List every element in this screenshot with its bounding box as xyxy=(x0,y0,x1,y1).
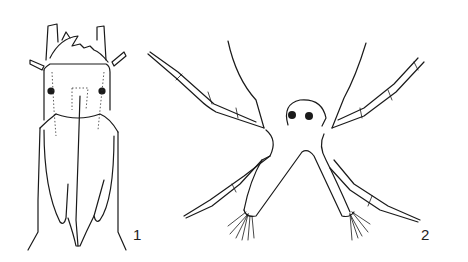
panel-label-2: 2 xyxy=(421,226,429,243)
panel-label-1: 1 xyxy=(133,226,141,243)
specimen-1-drawing xyxy=(28,24,126,250)
specimen-2-drawing xyxy=(148,41,424,240)
figure-canvas xyxy=(0,0,468,262)
